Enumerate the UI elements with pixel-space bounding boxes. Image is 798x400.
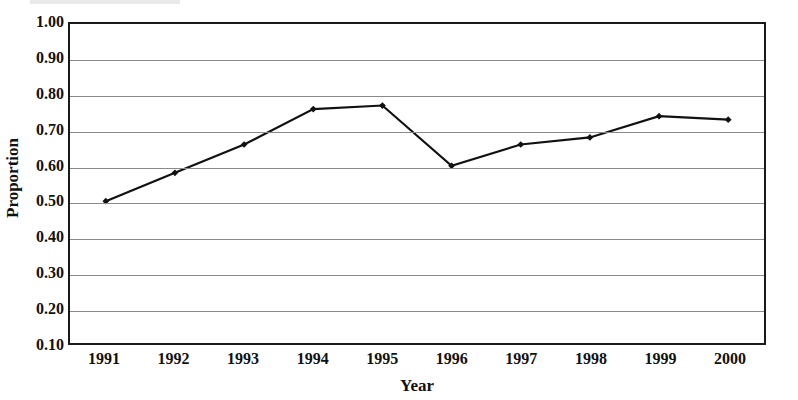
- x-tick-label: 1994: [297, 350, 329, 368]
- gridline: [70, 60, 764, 61]
- y-tick-label: 0.90: [36, 49, 64, 67]
- data-point-marker: [587, 134, 594, 141]
- x-tick-label: 1998: [575, 350, 607, 368]
- data-point-marker: [656, 113, 663, 120]
- x-tick-label: 1999: [644, 350, 676, 368]
- y-axis-tick-labels: 1.000.900.800.700.600.500.400.300.200.10: [20, 0, 66, 355]
- x-tick-label: 1992: [158, 350, 190, 368]
- x-tick-label: 2000: [714, 350, 746, 368]
- gridline: [70, 132, 764, 133]
- data-point-marker: [725, 116, 732, 123]
- x-tick-label: 1996: [436, 350, 468, 368]
- x-tick-label: 1997: [505, 350, 537, 368]
- data-point-marker: [517, 141, 524, 148]
- data-series-line: [70, 24, 764, 343]
- x-axis-title: Year: [68, 376, 766, 396]
- gridline: [70, 203, 764, 204]
- y-tick-label: 0.60: [36, 157, 64, 175]
- y-tick-label: 0.70: [36, 121, 64, 139]
- gridline: [70, 96, 764, 97]
- y-tick-label: 0.30: [36, 264, 64, 282]
- gridline: [70, 311, 764, 312]
- y-tick-label: 1.00: [36, 13, 64, 31]
- y-tick-label: 0.50: [36, 192, 64, 210]
- y-tick-label: 0.10: [36, 336, 64, 354]
- gridline: [70, 168, 764, 169]
- y-tick-label: 0.80: [36, 85, 64, 103]
- x-tick-label: 1993: [227, 350, 259, 368]
- data-point-marker: [172, 170, 179, 177]
- plot-inner: [70, 24, 764, 343]
- plot-area: [68, 22, 766, 345]
- x-axis-tick-labels: 1991199219931994199519961997199819992000: [68, 350, 766, 374]
- x-tick-label: 1991: [88, 350, 120, 368]
- gridline: [70, 275, 764, 276]
- gridline: [70, 239, 764, 240]
- line-chart-figure: Proportion 1.000.900.800.700.600.500.400…: [0, 0, 798, 400]
- series-polyline: [106, 106, 728, 202]
- y-tick-label: 0.20: [36, 300, 64, 318]
- y-tick-label: 0.40: [36, 228, 64, 246]
- x-tick-label: 1995: [366, 350, 398, 368]
